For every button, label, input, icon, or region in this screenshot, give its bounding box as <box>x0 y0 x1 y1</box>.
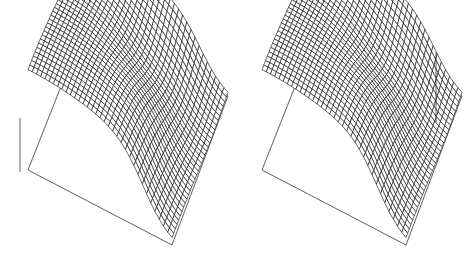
surface-plot-left-canvas <box>0 0 234 266</box>
surface-hidden-line-mask <box>262 0 462 238</box>
figure-root <box>0 0 468 266</box>
surface-plot-panel-left <box>0 0 234 266</box>
surface-hidden-line-mask <box>28 0 228 238</box>
surface-plot-right-canvas <box>234 0 468 266</box>
surface-plot-panel-right <box>234 0 468 266</box>
